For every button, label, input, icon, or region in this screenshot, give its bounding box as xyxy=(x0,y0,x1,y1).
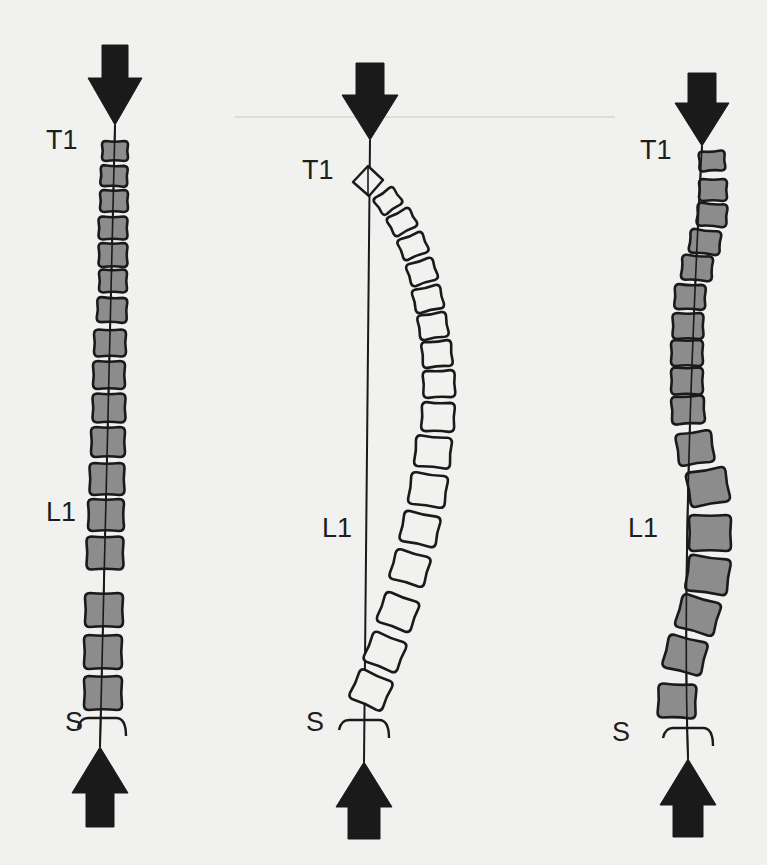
label-t1-scoliotic: T1 xyxy=(640,137,672,164)
vertebra xyxy=(84,676,122,710)
vertebra xyxy=(348,668,394,712)
panel-kyphotic-spine xyxy=(336,63,455,839)
panel-scoliotic-spine xyxy=(657,73,731,837)
vertebra xyxy=(689,515,731,551)
vertebra xyxy=(362,630,407,673)
vertebra xyxy=(97,297,128,323)
up-arrow-icon xyxy=(660,759,716,837)
down-arrow-icon xyxy=(675,73,729,146)
vertebra xyxy=(674,284,706,310)
vertebra xyxy=(99,270,127,293)
down-arrow-icon xyxy=(342,63,398,140)
vertebra xyxy=(685,554,732,595)
vertebra xyxy=(423,370,456,398)
spine-diagram-canvas xyxy=(0,0,767,865)
sacrum-bracket xyxy=(78,718,126,736)
vertebra xyxy=(417,311,450,340)
vertebra xyxy=(696,202,728,227)
label-sacrum-straight: S xyxy=(65,709,83,736)
vertebra xyxy=(657,683,696,718)
spine-figure: T1 L1 S T1 L1 S T1 L1 S xyxy=(0,0,767,865)
vertebra xyxy=(407,472,448,509)
vertebra xyxy=(411,284,445,314)
vertebra xyxy=(414,435,453,469)
vertebra xyxy=(671,395,705,425)
vertebra xyxy=(688,228,721,255)
vertebra xyxy=(671,368,703,395)
down-arrow-icon xyxy=(88,45,142,125)
vertebra xyxy=(421,340,453,369)
vertebra xyxy=(699,179,727,201)
label-t1-kyphotic: T1 xyxy=(302,157,334,184)
vertebra xyxy=(674,593,722,637)
label-l1-straight: L1 xyxy=(46,499,76,526)
label-sacrum-scoliotic: S xyxy=(612,719,630,746)
vertebra xyxy=(388,548,431,588)
vertebra xyxy=(673,313,704,339)
label-t1-straight: T1 xyxy=(46,127,78,154)
vertebra xyxy=(661,634,708,677)
up-arrow-icon xyxy=(336,762,392,839)
vertebra xyxy=(376,591,421,633)
up-arrow-icon xyxy=(72,747,128,827)
label-l1-kyphotic: L1 xyxy=(322,515,352,542)
vertebra xyxy=(675,430,715,467)
label-l1-scoliotic: L1 xyxy=(628,515,658,542)
vertebra xyxy=(399,510,442,548)
label-sacrum-kyphotic: S xyxy=(306,709,324,736)
vertebra xyxy=(421,402,455,432)
vertebra xyxy=(671,340,703,366)
vertebra xyxy=(405,257,439,288)
vertebra xyxy=(685,466,730,507)
vertebra xyxy=(99,243,128,267)
vertebra xyxy=(698,150,725,171)
